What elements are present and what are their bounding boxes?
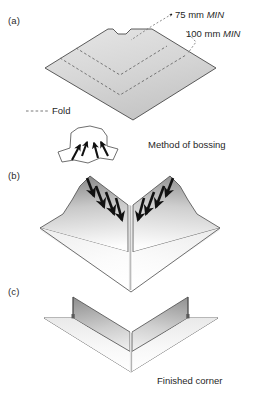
panel-label-b: (b) — [8, 170, 20, 181]
finished-corner-caption: Finished corner — [157, 375, 222, 386]
dimension-100-value: 100 mm — [186, 28, 220, 39]
dimension-label-75mm: 75 mm MIN — [175, 9, 224, 20]
panel-label-c: (c) — [8, 286, 20, 297]
inset-outline — [58, 126, 118, 163]
plate-outline — [45, 29, 216, 120]
dimension-75-qualifier: MIN — [207, 9, 224, 20]
panel-label-a: (a) — [8, 15, 20, 26]
panel-b-bossing — [40, 126, 220, 292]
corner-notch-left — [72, 314, 75, 318]
dimension-label-100mm: 100 mm MIN — [186, 28, 240, 39]
bossing-diagram-svg — [0, 0, 260, 409]
corner-notch-right — [186, 314, 189, 318]
method-of-bossing-caption: Method of bossing — [148, 139, 226, 150]
dimension-100-qualifier: MIN — [223, 28, 240, 39]
figure-canvas: (a) (b) (c) 75 mm MIN 100 mm MIN Fold Me… — [0, 0, 260, 409]
fold-legend-label: Fold — [52, 105, 70, 116]
bossing-inset-detail — [58, 126, 118, 163]
dimension-75-value: 75 mm — [175, 9, 204, 20]
panel-c-finished-corner — [44, 297, 218, 372]
